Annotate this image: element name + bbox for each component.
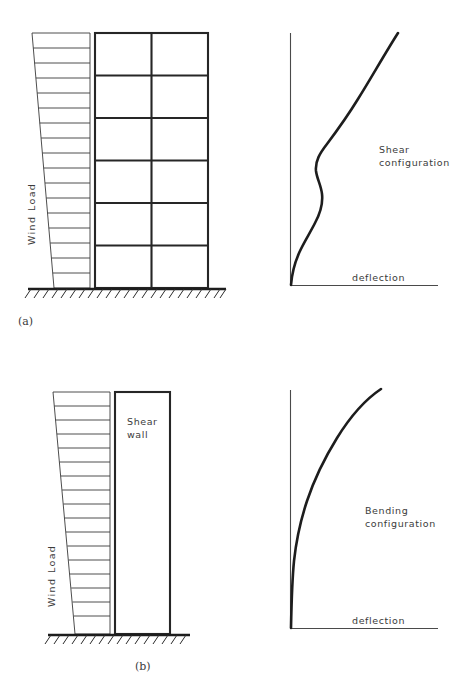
shear-wall-b: Shear wall [115,392,170,634]
panel-a-caption: (a) [18,315,33,328]
shear-wall-label-line1: Shear [127,416,158,427]
shear-wall-label-line2: wall [127,429,148,440]
shear-configuration-title-line1: Shear [379,144,410,155]
ground-line-a [25,289,226,298]
wind-load-hatch-b [54,406,110,616]
ground-hatching-a [25,289,226,298]
bending-configuration-plot: Bending configuration deflection [290,389,438,629]
wind-load-profile-b [53,392,110,634]
panel-b: Shear wall [0,345,473,689]
ground-hatching-b [45,635,186,644]
rigid-frame-a [95,33,208,288]
panel-a: Wind Load Shear configuration deflection… [0,0,473,345]
plot-b-xlabel: deflection [352,615,405,626]
wind-load-label-a: Wind Load [26,183,37,245]
shear-configuration-plot: Shear configuration deflection [290,33,450,286]
plot-a-xlabel: deflection [352,272,405,283]
wind-load-hatch-a [33,48,90,273]
bending-configuration-title-line2: configuration [365,518,436,529]
bending-configuration-title-line1: Bending [365,505,408,516]
wind-load-outline-b [53,392,110,634]
wind-load-profile-a [32,33,90,288]
shear-configuration-title-line2: configuration [379,157,450,168]
panel-b-caption: (b) [135,660,151,673]
wind-load-outline-a [32,33,90,288]
panel-a-drawing: Wind Load Shear configuration deflection [0,0,473,345]
ground-line-b [45,635,190,644]
wind-load-label-b: Wind Load [46,545,57,607]
panel-b-drawing-main: Shear wall [0,345,473,689]
